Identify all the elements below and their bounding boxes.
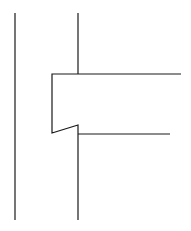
- beam-outline: [52, 74, 181, 220]
- joint-diagram: [0, 0, 191, 231]
